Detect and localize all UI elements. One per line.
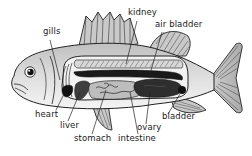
tail-fin [212,43,242,113]
label-gills: gills [43,27,60,36]
bladder-organ [178,86,186,94]
label-bladder: bladder [162,112,195,121]
kidney-organ [74,60,183,68]
fish-anatomy-diagram: gills kidney air bladder heart liver sto… [0,0,252,156]
label-stomach: stomach [74,134,111,143]
label-liver: liver [60,121,79,130]
label-heart: heart [35,110,58,119]
label-kidney: kidney [128,8,157,17]
label-intestine: intestine [118,134,156,143]
label-air-bladder: air bladder [155,20,202,29]
ovary-organ [134,79,182,97]
stomach-organ [89,81,140,100]
label-ovary: ovary [137,123,161,132]
